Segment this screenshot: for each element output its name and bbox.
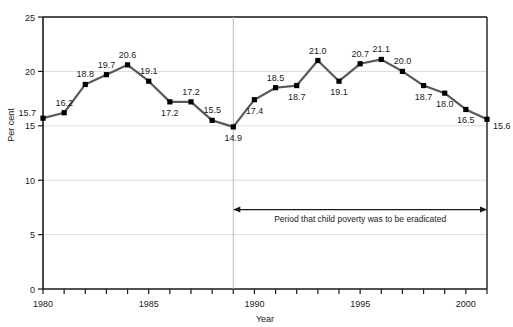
data-point-label: 15.5	[203, 105, 221, 115]
data-point-label: 21.0	[309, 46, 327, 56]
data-point-label: 18.5	[267, 73, 285, 83]
data-point-label: 14.9	[225, 133, 243, 143]
data-point-marker	[231, 124, 236, 129]
data-point-marker	[167, 99, 172, 104]
data-point-label: 17.2	[161, 108, 179, 118]
y-tick-label: 0	[30, 285, 35, 295]
x-tick-label: 2000	[456, 299, 476, 309]
data-point-marker	[442, 91, 447, 96]
x-tick-label: 1980	[33, 299, 53, 309]
data-point-label: 20.7	[351, 49, 369, 59]
data-point-label: 19.7	[98, 60, 116, 70]
data-point-label: 17.2	[182, 87, 200, 97]
y-tick-label: 20	[25, 67, 35, 77]
data-point-marker	[83, 82, 88, 87]
data-point-label: 18.0	[436, 99, 454, 109]
data-point-label: 18.7	[288, 92, 306, 102]
data-point-marker	[125, 62, 130, 67]
data-point-marker	[484, 117, 489, 122]
data-point-label: 20.6	[119, 50, 137, 60]
data-point-label: 16.2	[55, 98, 73, 108]
y-tick-label: 5	[30, 230, 35, 240]
annotation-arrowhead-left	[233, 207, 240, 213]
data-point-marker	[400, 69, 405, 74]
x-axis-title: Year	[256, 314, 274, 324]
x-tick-label: 1995	[350, 299, 370, 309]
data-point-marker	[62, 110, 67, 115]
data-point-label: 19.1	[140, 66, 158, 76]
data-point-marker	[421, 83, 426, 88]
data-point-label: 15.6	[493, 121, 511, 131]
data-point-marker	[294, 83, 299, 88]
chart-container: 051015202519801985199019952000YearPer ce…	[0, 0, 513, 327]
data-point-marker	[273, 85, 278, 90]
data-point-marker	[210, 118, 215, 123]
y-tick-label: 10	[25, 176, 35, 186]
data-point-label: 21.1	[373, 44, 391, 54]
data-point-marker	[188, 99, 193, 104]
data-point-label: 18.7	[415, 92, 433, 102]
data-point-marker	[463, 107, 468, 112]
data-point-marker	[40, 116, 45, 121]
line-chart: 051015202519801985199019952000YearPer ce…	[0, 0, 513, 327]
data-point-label: 19.1	[330, 87, 348, 97]
annotation-text: Period that child poverty was to be erad…	[274, 214, 446, 224]
annotation-arrowhead-right	[480, 207, 487, 213]
data-point-marker	[379, 57, 384, 62]
data-point-marker	[104, 72, 109, 77]
data-point-marker	[336, 79, 341, 84]
x-tick-label: 1990	[244, 299, 264, 309]
data-point-marker	[315, 58, 320, 63]
data-point-label: 18.8	[77, 69, 95, 79]
data-point-marker	[252, 97, 257, 102]
y-tick-label: 15	[25, 121, 35, 131]
y-axis-title: Per cent	[6, 108, 16, 142]
y-tick-label: 25	[25, 13, 35, 23]
data-point-label: 17.4	[246, 106, 264, 116]
data-point-marker	[358, 61, 363, 66]
data-point-label: 16.5	[457, 115, 475, 125]
data-point-label: 20.0	[394, 56, 412, 66]
data-point-marker	[146, 79, 151, 84]
x-tick-label: 1985	[139, 299, 159, 309]
data-point-label: 15.7	[18, 108, 36, 118]
